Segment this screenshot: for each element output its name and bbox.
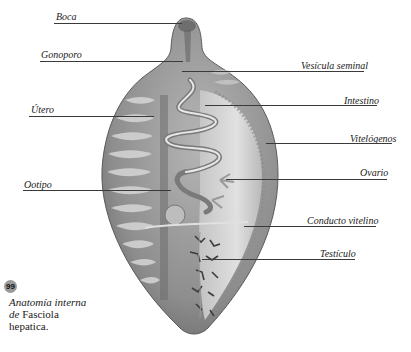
- figure-number-badge: 99: [4, 280, 17, 293]
- leader-ootipo: [23, 190, 171, 191]
- leader-testiculo: [202, 259, 355, 260]
- caption-line-2: de Fasciola: [9, 308, 86, 320]
- label-ootipo: Ootipo: [24, 180, 52, 190]
- leader-conducto-vitelino: [244, 226, 376, 227]
- caption-line-1: Anatomía interna: [9, 296, 86, 308]
- fasciola-anatomy-figure: Boca Gonoporo Útero Ootipo Vesícula semi…: [0, 0, 411, 352]
- label-conducto-vitelino: Conducto vitelino: [307, 216, 378, 226]
- caption-de: de: [9, 308, 19, 320]
- label-utero: Útero: [31, 105, 54, 115]
- label-vesicula-seminal: Vesícula seminal: [301, 61, 368, 71]
- figure-caption: Anatomía interna de Fasciola hepatica.: [9, 296, 86, 332]
- leader-utero: [29, 116, 154, 117]
- leader-gonoporo: [40, 61, 183, 62]
- leader-ovario: [226, 179, 387, 180]
- leader-vesicula-seminal: [182, 71, 364, 72]
- leader-intestino: [205, 105, 377, 106]
- leader-boca: [54, 23, 182, 24]
- caption-genus: Fasciola: [19, 308, 58, 320]
- label-gonoporo: Gonoporo: [41, 50, 82, 60]
- caption-line-3: hepatica.: [9, 320, 86, 332]
- label-ovario: Ovario: [360, 168, 388, 178]
- label-boca: Boca: [56, 12, 77, 22]
- leader-vitelogenos: [266, 143, 392, 144]
- label-testiculo: Testículo: [320, 249, 356, 259]
